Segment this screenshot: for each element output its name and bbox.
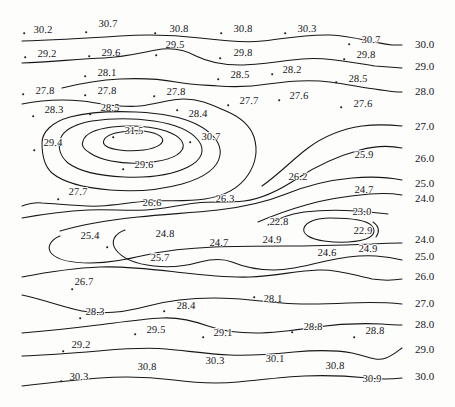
data-point-value: 25.7 [151,253,170,264]
data-point-value: 30.1 [266,354,285,365]
data-point-value: 30.8 [326,361,345,372]
data-point-value: 28.3 [45,105,64,116]
data-point-value: 29.5 [166,40,185,51]
contour-level-label: 28.0 [415,86,434,97]
data-point-value: 26.3 [216,194,235,205]
data-point-marker [60,380,62,382]
contour-map-figure: 30.230.730.830.830.330.729.229.629.529.8… [0,0,455,407]
data-point-value: 30.7 [202,132,221,143]
data-point-marker [89,113,91,115]
data-point-value: 24.8 [156,229,175,240]
contour-line-28-lower [22,318,402,333]
data-point-value: 27.8 [98,86,117,97]
contour-level-label: 30.0 [415,371,434,382]
data-point-marker [217,78,219,80]
data-point-value: 28.5 [101,103,120,114]
data-point-value: 29.1 [214,328,233,339]
data-point-marker [134,333,136,335]
data-point-value: 30.3 [206,356,225,367]
contour-line-26-mid [22,146,402,218]
contour-line-30-top [22,35,402,45]
contour-level-label: 30.0 [415,39,434,50]
data-point-marker [353,336,355,338]
data-point-value: 28.4 [189,109,208,120]
data-point-marker [24,56,26,58]
data-point-marker [57,198,59,200]
data-point-marker [84,94,86,96]
contour-level-label: 24.0 [415,234,434,245]
data-point-marker [163,310,165,312]
data-point-value: 26.6 [143,198,162,209]
data-point-value: 24.7 [355,185,374,196]
data-point-marker [112,136,114,138]
data-point-value: 28.8 [304,322,323,333]
data-point-marker [253,296,255,298]
data-point-marker [220,32,222,34]
data-point-value: 30.8 [234,24,253,35]
data-point-marker [22,93,24,95]
data-point-marker [271,73,273,75]
data-point-value: 29.8 [357,50,376,61]
data-point-value: 24.9 [263,235,282,246]
data-point-value: 29.4 [44,138,63,149]
data-point-value: 22.9 [354,226,373,237]
data-point-marker [176,109,178,111]
data-point-value: 27.6 [290,91,309,102]
data-point-value: 28.1 [98,68,117,79]
data-point-marker [335,81,337,83]
data-point-value: 29.2 [38,49,57,60]
contour-level-label: 28.0 [415,319,434,330]
data-point-marker [79,317,81,319]
contour-level-label: 25.0 [415,178,434,189]
data-point-marker [153,95,155,97]
data-point-value: 24.9 [359,244,378,255]
data-point-value: 27.7 [69,187,88,198]
data-point-value: 24.6 [318,248,337,259]
data-point-marker [23,32,25,34]
data-point-value: 28.1 [264,294,283,305]
data-point-marker [122,168,124,170]
data-point-value: 29.5 [147,325,166,336]
data-point-value: 22.8 [270,217,289,228]
data-point-marker [106,246,108,248]
data-point-value: 25.9 [355,150,374,161]
data-point-value: 31.5 [125,126,144,137]
data-point-value: 28.2 [283,65,302,76]
data-point-value: 30.2 [34,25,53,36]
contour-level-label: 26.0 [415,271,434,282]
data-point-value: 28.4 [177,301,196,312]
data-point-marker [189,141,191,143]
data-point-value: 30.8 [138,362,157,373]
data-point-marker [291,331,293,333]
data-point-marker [84,75,86,77]
data-point-value: 27.6 [354,99,373,110]
contour-line-27-lower [22,295,402,313]
data-point-value: 28.3 [86,307,105,318]
data-point-value: 28.5 [231,70,250,81]
data-point-marker [284,32,286,34]
data-point-value: 28.8 [366,326,385,337]
contour-line-27-right [262,125,402,186]
data-point-value: 28.5 [349,74,368,85]
data-point-marker [88,55,90,57]
data-point-marker [202,336,204,338]
contour-level-label: 26.0 [415,153,434,164]
data-point-value: 27.8 [167,87,186,98]
data-point-marker [85,31,87,33]
data-point-value: 30.3 [70,372,89,383]
data-point-marker [32,115,34,117]
contour-level-label: 29.0 [415,344,434,355]
data-point-value: 26.7 [75,277,94,288]
data-point-value: 25.4 [81,231,100,242]
data-point-value: 30.3 [298,24,317,35]
data-point-value: 30.8 [170,24,189,35]
data-point-value: 29.2 [72,340,91,351]
data-point-value: 29.8 [234,48,253,59]
data-point-value: 29.6 [102,48,121,59]
contour-level-label: 27.0 [415,298,434,309]
data-point-marker [62,350,64,352]
data-point-value: 29.6 [135,160,154,171]
data-point-marker [33,149,35,151]
data-point-value: 30.7 [99,19,118,30]
data-point-value: 23.0 [353,207,372,218]
